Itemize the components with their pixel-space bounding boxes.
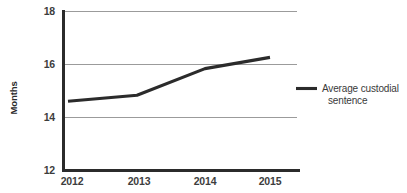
ytick-label-16: 16 (44, 58, 56, 70)
legend-label-line-1: Average custodial (322, 83, 399, 94)
ytick-label-18: 18 (44, 5, 56, 17)
ytick-label-14: 14 (44, 111, 56, 123)
xtick-label-2015: 2015 (259, 175, 282, 187)
ytick-label-12: 12 (44, 164, 56, 176)
xtick-label-2013: 2013 (128, 175, 151, 187)
chart-legend: Average custodial sentence (296, 83, 399, 106)
chart-canvas: 18 16 14 12 Months 2012 2013 2014 2015 A… (0, 0, 407, 193)
xtick-label-2014: 2014 (194, 175, 217, 187)
y-axis-title: Months (8, 81, 19, 114)
plot-area (63, 11, 297, 170)
line-chart: 18 16 14 12 Months 2012 2013 2014 2015 A… (0, 0, 407, 193)
legend-label-line-2: sentence (328, 95, 368, 106)
xtick-label-2012: 2012 (61, 175, 84, 187)
